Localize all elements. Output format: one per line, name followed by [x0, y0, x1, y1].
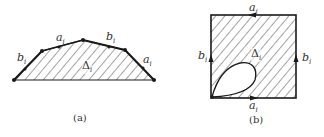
figure-a-label-b-left: bi	[17, 52, 26, 66]
figure-b-label-a-top: ai	[249, 2, 258, 16]
diagram-canvas	[0, 0, 324, 137]
figure-a-label-b-right: bi	[106, 31, 115, 45]
figure-a-label-a-right: ai	[143, 54, 152, 68]
figure-a-label-a-left: ai	[56, 32, 65, 46]
figure-b-label-b-left: bi	[198, 50, 207, 64]
figure-a-region-label: Δi	[82, 60, 92, 74]
figure-a-caption: (a)	[73, 113, 87, 123]
figure-b-region-label: Δi	[251, 48, 261, 62]
figure-b-label-b-right: bi	[302, 52, 311, 66]
figure-b-caption: (b)	[249, 115, 263, 125]
figure-b-label-a-bottom: ai	[249, 100, 258, 114]
